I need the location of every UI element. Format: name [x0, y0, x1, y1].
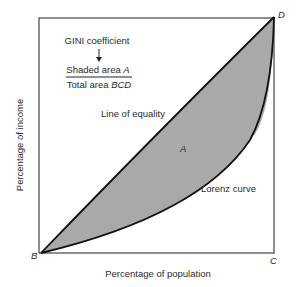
lorenz-label: Lorenz curve — [201, 183, 256, 194]
denominator: Total area BCD — [67, 79, 132, 90]
arrow-head-icon — [96, 57, 102, 62]
equality-label: Line of equality — [101, 108, 165, 119]
x-axis-label: Percentage of population — [105, 268, 211, 279]
point-b-label: B — [31, 250, 38, 261]
area-a-label: A — [179, 143, 186, 154]
gini-label: GINI coefficient — [65, 35, 130, 46]
point-d-label: D — [278, 9, 285, 20]
point-c-label: C — [270, 255, 277, 266]
y-axis-label: Percentage of income — [14, 99, 25, 191]
numerator: Shaded area A — [66, 64, 129, 75]
lorenz-diagram: GINI coefficient Shaded area A Total are… — [0, 0, 298, 287]
